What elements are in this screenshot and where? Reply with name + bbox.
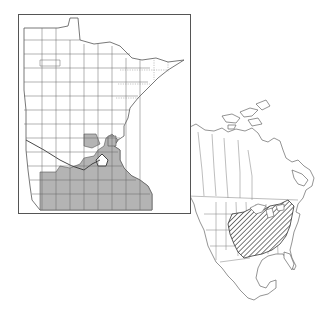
arctic-islands bbox=[222, 100, 270, 129]
minnesota-map-panel bbox=[19, 15, 191, 214]
florida bbox=[284, 252, 294, 270]
distribution-map-figure bbox=[0, 0, 331, 317]
north-america-map bbox=[184, 100, 314, 300]
